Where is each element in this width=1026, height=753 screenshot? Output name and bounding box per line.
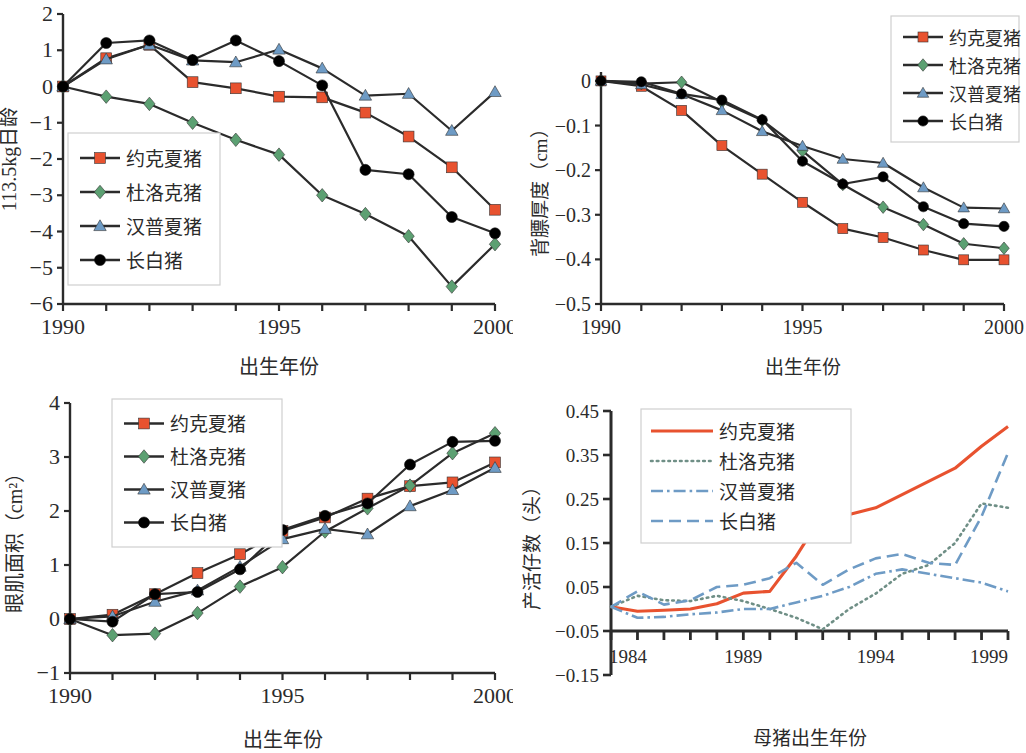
data-point-marker: [959, 219, 969, 229]
legend: 约克夏猪杜洛克猪汉普夏猪长白猪: [112, 399, 282, 547]
y-tick-label: 1: [49, 552, 60, 577]
data-point-marker: [144, 35, 155, 46]
data-point-marker: [234, 580, 245, 594]
data-point-marker: [64, 613, 75, 624]
legend-label: 长白猪: [170, 513, 227, 534]
data-point-marker: [677, 89, 687, 99]
data-point-marker: [403, 131, 414, 142]
data-point-marker: [234, 564, 245, 575]
data-point-marker: [838, 179, 848, 189]
x-axis-title: 母猪出生年份: [753, 728, 867, 749]
x-axis-title: 出生年份: [243, 729, 323, 751]
data-point-marker: [918, 116, 928, 126]
data-point-marker: [838, 224, 848, 234]
x-tick-label: 1994: [857, 646, 896, 667]
legend-label: 汉普夏猪: [170, 480, 246, 501]
x-tick-label: 1990: [41, 314, 85, 339]
data-point-marker: [489, 435, 500, 446]
data-point-marker: [230, 35, 241, 46]
data-point-marker: [677, 105, 687, 115]
y-tick-label: −0.15: [555, 665, 599, 686]
x-tick-label: 1984: [609, 646, 648, 667]
data-point-marker: [636, 77, 646, 87]
data-point-marker: [187, 116, 198, 130]
legend-label: 约克夏猪: [719, 422, 795, 443]
data-point-marker: [360, 164, 371, 175]
data-point-marker: [317, 80, 328, 91]
data-point-marker: [319, 510, 330, 521]
data-point-marker: [101, 37, 112, 48]
y-tick-label: 1: [42, 37, 53, 62]
data-point-marker: [959, 255, 969, 265]
data-point-marker: [878, 172, 888, 182]
data-point-marker: [273, 56, 284, 67]
data-point-marker: [149, 589, 160, 600]
y-tick-label: 0.35: [566, 445, 599, 466]
y-tick-label: −1: [37, 660, 60, 685]
data-point-marker: [192, 606, 203, 620]
y-tick-label: 0: [42, 74, 53, 99]
chart-svg-loin-eye-area: −101234199019952000出生年份眼肌面积（cm²）约克夏猪杜洛克猪…: [0, 375, 513, 753]
y-tick-label: −6: [30, 291, 53, 316]
x-tick-label: 2000: [473, 683, 513, 708]
data-point-marker: [596, 76, 606, 86]
y-tick-label: 0.05: [566, 577, 599, 598]
data-point-marker: [918, 202, 928, 212]
data-point-marker: [918, 32, 928, 42]
y-tick-label: −0.05: [555, 621, 599, 642]
y-tick-label: 0: [581, 70, 591, 92]
x-tick-label: 1995: [783, 316, 823, 338]
chart-panel-loin-eye-area: −101234199019952000出生年份眼肌面积（cm²）约克夏猪杜洛克猪…: [0, 375, 513, 753]
data-point-marker: [756, 126, 768, 136]
data-point-marker: [230, 83, 241, 94]
data-point-marker: [447, 436, 458, 447]
data-point-marker: [676, 76, 687, 89]
y-tick-label: −5: [30, 255, 53, 280]
y-tick-label: −0.4: [555, 248, 591, 270]
data-point-marker: [144, 97, 155, 111]
y-tick-label: 0.15: [566, 533, 599, 554]
data-point-marker: [489, 228, 500, 239]
legend-label: 杜洛克猪: [170, 447, 246, 468]
data-point-marker: [798, 197, 808, 207]
x-tick-label: 1989: [724, 646, 762, 667]
y-axis-title: 眼肌面积（cm²）: [4, 463, 26, 613]
x-tick-label: 1990: [48, 683, 92, 708]
data-point-marker: [797, 156, 807, 166]
data-point-marker: [999, 255, 1009, 265]
x-tick-label: 2000: [984, 316, 1024, 338]
data-point-marker: [94, 254, 105, 265]
x-tick-label: 1999: [970, 646, 1008, 667]
data-point-marker: [717, 95, 727, 105]
y-tick-label: 2: [49, 498, 60, 523]
data-point-marker: [192, 568, 203, 579]
y-axis-title: 产活仔数（头）: [522, 477, 543, 610]
data-point-marker: [57, 81, 68, 92]
data-point-marker: [95, 153, 106, 164]
data-point-marker: [958, 238, 969, 251]
data-point-marker: [878, 233, 888, 243]
legend-label: 约克夏猪: [126, 149, 202, 170]
data-point-marker: [187, 77, 198, 88]
legend-label: 杜洛克猪: [719, 452, 795, 473]
chart-svg-live-born-litter-size: −0.15−0.050.050.150.250.350.451984198919…: [513, 375, 1026, 753]
data-point-marker: [274, 91, 285, 102]
y-tick-label: 2: [42, 1, 53, 26]
y-tick-label: 3: [49, 444, 60, 469]
y-axis-title: 背膘厚度（cm）: [530, 119, 551, 256]
legend-label: 汉普夏猪: [126, 217, 202, 238]
data-point-marker: [757, 115, 767, 125]
data-point-marker: [138, 517, 149, 528]
y-tick-label: 0: [49, 606, 60, 631]
legend: 约克夏猪杜洛克猪汉普夏猪长白猪: [68, 133, 220, 285]
chart-svg-backfat-thickness: −0.5−0.4−0.3−0.2−0.10199019952000出生年份背膘厚…: [513, 0, 1026, 380]
data-point-marker: [101, 90, 112, 104]
data-point-marker: [360, 107, 371, 118]
legend-label: 长白猪: [126, 251, 183, 272]
data-point-marker: [235, 549, 246, 560]
data-point-marker: [139, 418, 150, 429]
y-tick-label: −0.3: [555, 204, 591, 226]
data-point-marker: [187, 55, 198, 66]
legend-label: 长白猪: [949, 113, 1003, 133]
x-tick-label: 2000: [473, 314, 513, 339]
